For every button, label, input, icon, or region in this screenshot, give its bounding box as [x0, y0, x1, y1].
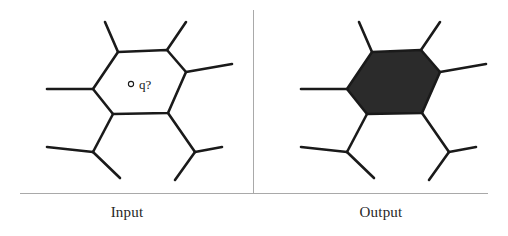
- stub-bottom-left-arm: [47, 147, 93, 152]
- voronoi-diagram-output: [254, 0, 508, 200]
- panel-input: q? Input: [0, 0, 254, 236]
- figure-container: q? Input Output: [0, 0, 508, 236]
- stub-bottom-left-leg: [347, 152, 374, 178]
- stub-right: [186, 64, 232, 72]
- stub-lower-right: [168, 113, 195, 152]
- voronoi-diagram-input: q?: [0, 0, 254, 200]
- panel-divider-vertical: [253, 10, 254, 194]
- stub-bottom-right-arm: [449, 147, 476, 152]
- stub-lower-left: [93, 114, 113, 152]
- caption-output: Output: [254, 202, 508, 222]
- stub-bottom-right-leg: [175, 152, 195, 180]
- figure-rule-horizontal: [20, 193, 488, 194]
- stub-lower-right: [422, 113, 449, 152]
- hexagon-cell-output: [347, 50, 440, 114]
- caption-input: Input: [0, 202, 254, 222]
- stub-bottom-right-leg: [429, 152, 449, 180]
- query-point-marker: [128, 81, 133, 86]
- stub-top-right: [421, 22, 440, 50]
- stub-top-left: [105, 22, 118, 52]
- stub-bottom-left-arm: [301, 147, 347, 152]
- stub-lower-left: [347, 114, 367, 152]
- stub-bottom-right-arm: [195, 147, 222, 152]
- panel-output: Output: [254, 0, 508, 236]
- stub-top-left: [359, 22, 372, 52]
- query-point-label: q?: [139, 77, 152, 92]
- stub-top-right: [167, 22, 186, 50]
- stub-right: [440, 64, 486, 72]
- stub-bottom-left-leg: [93, 152, 120, 178]
